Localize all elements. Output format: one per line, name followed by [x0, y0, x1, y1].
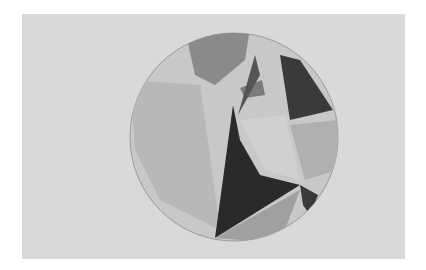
circle-drawing — [0, 0, 426, 270]
